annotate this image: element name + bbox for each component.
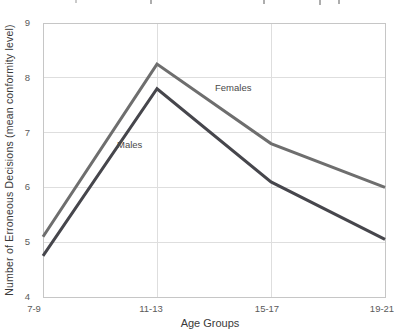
females-series-label: Females xyxy=(215,82,251,93)
x-tick-label: 15-17 xyxy=(255,303,279,314)
figure-conformity-by-age: 4567897-911-1315-1719-21 Number of Erron… xyxy=(0,0,394,333)
plot-area xyxy=(0,0,394,333)
males-series-label: Males xyxy=(117,139,142,150)
x-tick-label: 11-13 xyxy=(139,303,163,314)
x-tick-label: 7-9 xyxy=(27,303,41,314)
males-line xyxy=(43,89,385,256)
females-line xyxy=(43,64,385,237)
x-tick-label: 19-21 xyxy=(370,303,394,314)
y-axis-title: Number of Erroneous Decisions (mean conf… xyxy=(3,24,15,295)
x-axis-title: Age Groups xyxy=(181,317,240,329)
